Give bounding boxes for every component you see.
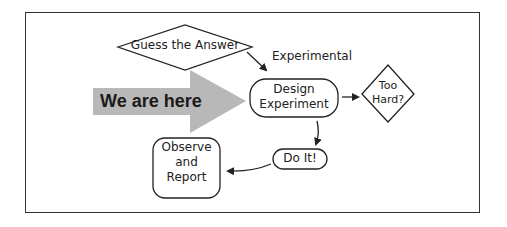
guess-label: Guess the Answer — [128, 39, 242, 53]
design-label-line2: Experiment — [250, 98, 338, 112]
observe-label-line1: Observe — [153, 141, 220, 155]
observe-label-line3: Report — [153, 171, 220, 185]
too-hard-label-line2: Hard? — [368, 94, 408, 107]
design-label-line1: Design — [250, 83, 338, 97]
flowchart-canvas — [0, 0, 507, 227]
edge-guess-to-design — [247, 52, 266, 70]
edge-doit-to-observe — [228, 164, 271, 171]
experimental-label: Experimental — [272, 50, 352, 64]
observe-label-line2: and — [153, 156, 220, 170]
edge-design-to-doit — [316, 121, 318, 144]
we-are-here-label: We are here — [100, 91, 240, 112]
do-it-label: Do It! — [273, 152, 327, 166]
too-hard-label-line1: Too — [368, 80, 408, 93]
